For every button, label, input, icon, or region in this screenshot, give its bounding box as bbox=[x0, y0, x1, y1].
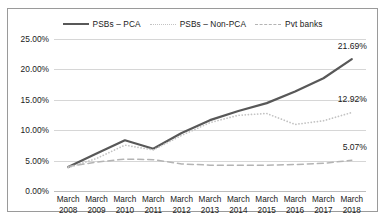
y-axis-tick-label: 5.00% bbox=[25, 156, 49, 166]
legend-item-label: PSBs – Non-PCA bbox=[180, 19, 246, 29]
x-axis-tick-label: March2010 bbox=[111, 195, 139, 221]
legend-swatch-dashed-icon bbox=[255, 24, 281, 25]
x-axis-tick-line: March bbox=[111, 195, 139, 206]
x-axis-tick-line: 2015 bbox=[253, 206, 281, 217]
y-axis-tick-label: 10.00% bbox=[21, 125, 49, 135]
series-end-value-label: 21.69% bbox=[338, 41, 367, 51]
x-axis-tick-label: March2008 bbox=[54, 195, 82, 221]
x-axis-tick-line: 2008 bbox=[54, 206, 82, 217]
legend-swatch-solid-icon bbox=[63, 23, 89, 25]
x-axis-tick-line: March bbox=[139, 195, 167, 206]
x-axis-tick-label: March2015 bbox=[253, 195, 281, 221]
x-axis-tick-line: March bbox=[224, 195, 252, 206]
x-axis-tick-line: March bbox=[309, 195, 337, 206]
series-line bbox=[68, 159, 352, 166]
legend-item-label: Pvt banks bbox=[285, 19, 322, 29]
legend-item-label: PSBs – PCA bbox=[93, 19, 141, 29]
x-axis-labels: March2008March2009March2010March2011Marc… bbox=[54, 195, 366, 221]
x-axis-tick-line: 2018 bbox=[338, 206, 366, 217]
gridline bbox=[54, 191, 366, 192]
x-axis-tick-line: 2010 bbox=[111, 206, 139, 217]
x-axis-tick-label: March2009 bbox=[82, 195, 110, 221]
x-axis-tick-line: March bbox=[281, 195, 309, 206]
x-axis-tick-label: March2013 bbox=[196, 195, 224, 221]
series-layer bbox=[54, 39, 366, 191]
y-axis-tick-label: 25.00% bbox=[21, 34, 49, 44]
x-axis-tick-line: March bbox=[167, 195, 195, 206]
legend-item[interactable]: Pvt banks bbox=[255, 19, 322, 29]
x-axis-tick-line: March bbox=[54, 195, 82, 206]
y-axis-tick-label: 15.00% bbox=[21, 95, 49, 105]
x-axis-tick-line: 2017 bbox=[309, 206, 337, 217]
legend-item[interactable]: PSBs – Non-PCA bbox=[150, 19, 246, 29]
series-end-value-label: 5.07% bbox=[343, 142, 367, 152]
plot-area: 0.00%5.00%10.00%15.00%20.00%25.00% 21.69… bbox=[54, 39, 366, 191]
x-axis-tick-line: 2014 bbox=[224, 206, 252, 217]
series-end-value-label: 12.92% bbox=[338, 94, 367, 104]
legend-swatch-dotted-icon bbox=[150, 24, 176, 25]
series-line bbox=[68, 59, 352, 167]
x-axis-tick-line: March bbox=[338, 195, 366, 206]
x-axis-tick-line: 2009 bbox=[82, 206, 110, 217]
y-axis-tick-label: 0.00% bbox=[25, 186, 49, 196]
x-axis-tick-line: March bbox=[82, 195, 110, 206]
x-axis-tick-label: March2016 bbox=[281, 195, 309, 221]
x-axis-tick-line: 2016 bbox=[281, 206, 309, 217]
y-axis-tick-label: 20.00% bbox=[21, 64, 49, 74]
x-axis-tick-line: March bbox=[196, 195, 224, 206]
chart-legend: PSBs – PCAPSBs – Non-PCAPvt banks bbox=[8, 19, 377, 29]
x-axis-tick-label: March2011 bbox=[139, 195, 167, 221]
x-axis-tick-line: 2013 bbox=[196, 206, 224, 217]
x-axis-tick-label: March2018 bbox=[338, 195, 366, 221]
x-axis-tick-line: 2011 bbox=[139, 206, 167, 217]
legend-item[interactable]: PSBs – PCA bbox=[63, 19, 141, 29]
x-axis-tick-label: March2012 bbox=[167, 195, 195, 221]
x-axis-tick-line: 2012 bbox=[167, 206, 195, 217]
chart-container: PSBs – PCAPSBs – Non-PCAPvt banks 0.00%5… bbox=[7, 8, 378, 212]
x-axis-tick-line: March bbox=[253, 195, 281, 206]
x-axis-tick-label: March2017 bbox=[309, 195, 337, 221]
x-axis-tick-label: March2014 bbox=[224, 195, 252, 221]
